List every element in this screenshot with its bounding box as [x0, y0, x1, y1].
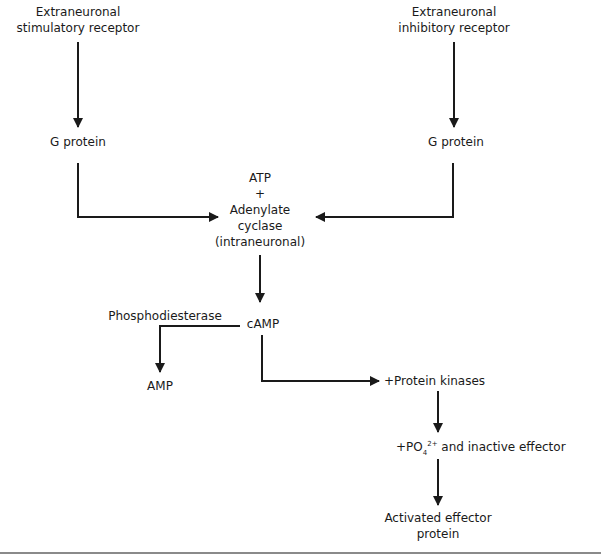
label-line: Activated effector — [378, 510, 498, 526]
node-amp: AMP — [140, 378, 180, 394]
node-protein-kinases: +Protein kinases — [384, 373, 494, 389]
node-po4-inactive-effector: +PO42+ and inactive effector — [396, 436, 576, 460]
po4-subscript: 4 — [423, 449, 427, 457]
label-line: protein — [378, 526, 498, 542]
node-g-protein-left: G protein — [38, 134, 118, 150]
arrow-camp-to-amp — [160, 326, 240, 372]
arrow-right-gprotein-to-adenylate — [316, 163, 453, 217]
node-phosphodiesterase: Phosphodiesterase — [100, 308, 230, 324]
label-line: + — [210, 186, 310, 202]
node-activated-effector: Activated effector protein — [378, 510, 498, 542]
label-line: inhibitory receptor — [384, 20, 524, 36]
connector-arrows — [0, 0, 601, 560]
po4-superscript: 2+ — [427, 440, 437, 448]
bottom-divider — [0, 552, 601, 554]
label-line: Extraneuronal — [8, 4, 148, 20]
node-camp: cAMP — [240, 316, 286, 332]
node-inhibitory-receptor: Extraneuronal inhibitory receptor — [384, 4, 524, 36]
arrow-camp-to-kinases — [262, 335, 379, 381]
arrow-left-gprotein-to-adenylate — [78, 163, 218, 217]
label-line: ATP — [210, 170, 310, 186]
label-line: stimulatory receptor — [8, 20, 148, 36]
node-g-protein-right: G protein — [416, 134, 496, 150]
label-line: cyclase — [210, 218, 310, 234]
diagram-canvas: Extraneuronal stimulatory receptor Extra… — [0, 0, 601, 560]
po4-prefix: +PO — [396, 440, 423, 454]
label-line: Extraneuronal — [384, 4, 524, 20]
label-line: (intraneuronal) — [210, 234, 310, 250]
node-stimulatory-receptor: Extraneuronal stimulatory receptor — [8, 4, 148, 36]
label-line: Adenylate — [210, 202, 310, 218]
po4-suffix: and inactive effector — [438, 440, 566, 454]
node-adenylate-cyclase: ATP + Adenylate cyclase (intraneuronal) — [210, 170, 310, 250]
